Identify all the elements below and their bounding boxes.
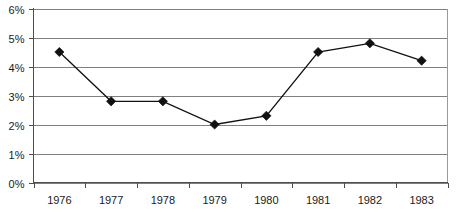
- y-axis-tick-label: 0%: [9, 178, 25, 190]
- x-axis-tick-label: 1978: [151, 194, 175, 206]
- y-axis-tick-label: 6%: [9, 4, 25, 16]
- y-axis-tick-label: 4%: [9, 62, 25, 74]
- x-axis-tick-label: 1983: [409, 194, 433, 206]
- y-axis-tick-label: 3%: [9, 91, 25, 103]
- x-axis-tick-label: 1982: [358, 194, 382, 206]
- x-axis-tick-label: 1979: [202, 194, 226, 206]
- chart-canvas: 0%1%2%3%4%5%6% 1976197719781979198019811…: [0, 0, 461, 215]
- y-axis-tick-label: 2%: [9, 120, 25, 132]
- y-axis-tick-label: 5%: [9, 33, 25, 45]
- y-axis-tick-label: 1%: [9, 149, 25, 161]
- x-axis-tick-label: 1976: [47, 194, 71, 206]
- line-chart: 0%1%2%3%4%5%6% 1976197719781979198019811…: [0, 0, 461, 215]
- x-axis-tick-label: 1980: [254, 194, 278, 206]
- x-axis-tick-label: 1977: [99, 194, 123, 206]
- x-axis-tick-label: 1981: [306, 194, 330, 206]
